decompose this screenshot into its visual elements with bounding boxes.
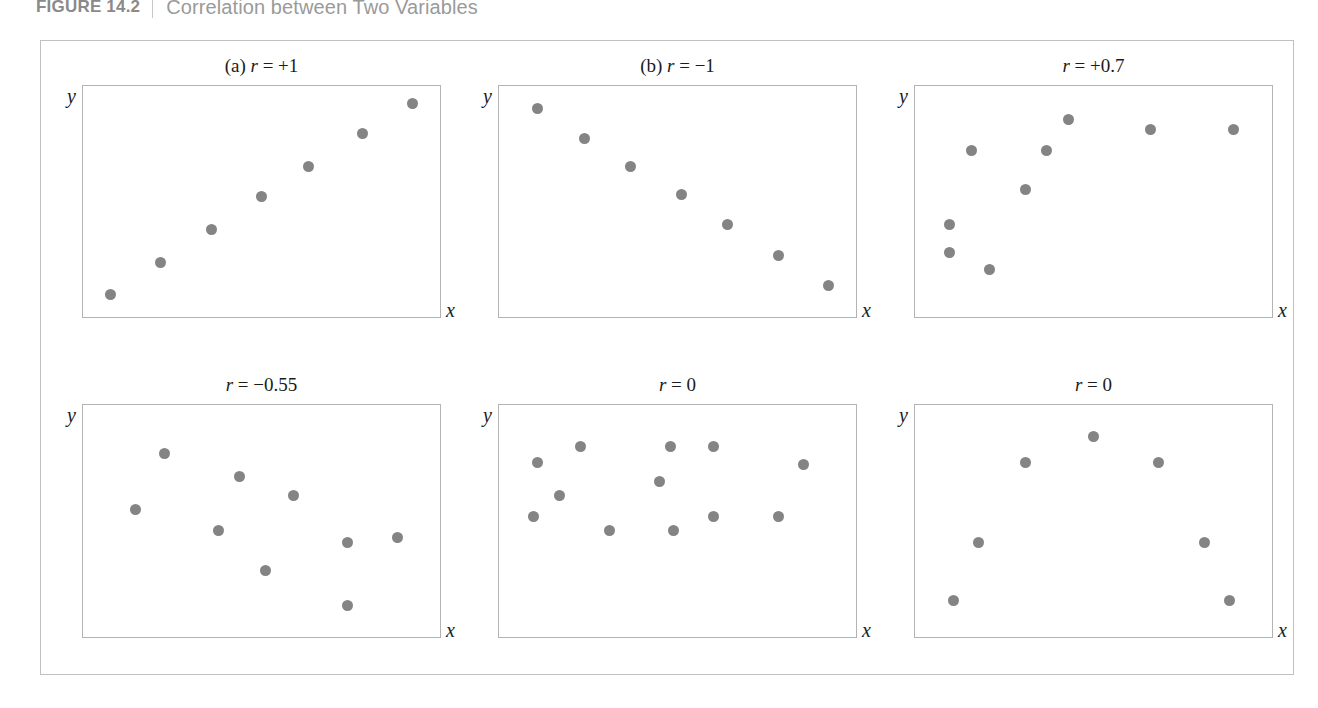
panel-f-title: r = 0 [914, 374, 1273, 396]
panel-c-y-axis-label: y [899, 86, 908, 106]
data-point [966, 145, 977, 156]
panel-e-y-axis-label: y [483, 405, 492, 425]
panel-f: r = 0yx [899, 374, 1295, 662]
panel-e-x-axis-label: x [862, 620, 871, 640]
data-point [973, 537, 984, 548]
data-point [1228, 124, 1239, 135]
data-point [708, 441, 719, 452]
panel-c-plot-area [914, 85, 1273, 318]
panel-b-title: (b) r = −1 [498, 55, 857, 77]
data-point [407, 98, 418, 109]
panel-b-x-axis-label: x [862, 300, 871, 320]
data-point [532, 103, 543, 114]
data-point [798, 459, 809, 470]
panel-d-title: r = −0.55 [82, 374, 441, 396]
panel-d-y-axis-label: y [67, 405, 76, 425]
panel-d-x-axis-label: x [446, 620, 455, 640]
data-point [984, 264, 995, 275]
data-point [948, 595, 959, 606]
data-point [1020, 457, 1031, 468]
data-point [260, 565, 271, 576]
header-divider [152, 0, 153, 18]
data-point [342, 537, 353, 548]
panel-f-x-axis-label: x [1278, 620, 1287, 640]
panel-d: r = −0.55yx [67, 374, 463, 662]
panel-b: (b) r = −1yx [483, 55, 879, 342]
panel-c: r = +0.7yx [899, 55, 1295, 342]
data-point [342, 600, 353, 611]
data-point [676, 189, 687, 200]
figure-title: Correlation between Two Variables [166, 0, 478, 19]
panel-b-plot-area [498, 85, 857, 318]
panel-b-y-axis-label: y [483, 86, 492, 106]
panel-e-plot-area [498, 404, 857, 638]
data-point [773, 250, 784, 261]
data-point [357, 128, 368, 139]
panel-c-x-axis-label: x [1278, 300, 1287, 320]
data-point [575, 441, 586, 452]
data-point [823, 280, 834, 291]
data-point [1041, 145, 1052, 156]
data-point [532, 457, 543, 468]
figure-frame: (a) r = +1yx(b) r = −1yxr = +0.7yxr = −0… [40, 40, 1294, 675]
data-point [773, 511, 784, 522]
panel-a-x-axis-label: x [446, 300, 455, 320]
panel-d-plot-area [82, 404, 441, 638]
data-point [604, 525, 615, 536]
data-point [159, 448, 170, 459]
figure-number-label: FIGURE 14.2 [36, 0, 140, 17]
panel-a-title: (a) r = +1 [82, 55, 441, 77]
data-point [1199, 537, 1210, 548]
data-point [579, 133, 590, 144]
data-point [554, 490, 565, 501]
data-point [708, 511, 719, 522]
panel-e-title: r = 0 [498, 374, 857, 396]
data-point [288, 490, 299, 501]
panel-e: r = 0yx [483, 374, 879, 662]
data-point [654, 476, 665, 487]
data-point [213, 525, 224, 536]
figure-header: FIGURE 14.2 Correlation between Two Vari… [36, 0, 478, 20]
panel-f-y-axis-label: y [899, 405, 908, 425]
panel-c-title: r = +0.7 [914, 55, 1273, 77]
data-point [665, 441, 676, 452]
panel-a-y-axis-label: y [67, 86, 76, 106]
panel-a: (a) r = +1yx [67, 55, 463, 342]
data-point [303, 161, 314, 172]
data-point [1153, 457, 1164, 468]
data-point [206, 224, 217, 235]
